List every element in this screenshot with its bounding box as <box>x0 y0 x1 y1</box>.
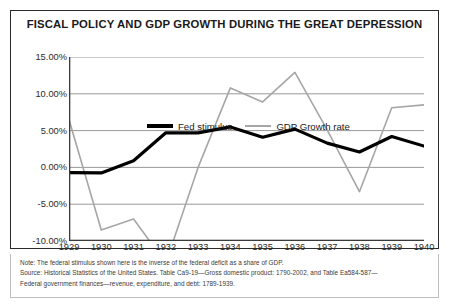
footnote-block: Note: The federal stimulus shown here is… <box>10 254 439 298</box>
figure-root: FISCAL POLICY AND GDP GROWTH DURING THE … <box>0 0 451 302</box>
x-tick-label: 1936 <box>285 242 306 252</box>
legend-label-gdp-growth-rate: GDP Growth rate <box>276 121 349 132</box>
footnote-line-note: Note: The federal stimulus shown here is… <box>20 258 429 268</box>
legend: Fed stimulus GDP Growth rate <box>147 119 350 133</box>
plot-svg <box>69 57 424 241</box>
x-axis-line <box>69 240 424 241</box>
legend-swatch-icon-gdp-growth-rate <box>245 125 271 127</box>
x-tick-label: 1934 <box>220 242 241 252</box>
x-tick-label: 1931 <box>123 242 144 252</box>
legend-label-fed-stimulus: Fed stimulus <box>178 121 232 132</box>
y-axis-labels: -10.00%-5.00%0.00%5.00%10.00%15.00% <box>19 57 67 241</box>
y-tick-label: 0.00% <box>41 162 67 172</box>
footnote-line-source: Source: Historical Statistics of the Uni… <box>20 268 429 278</box>
x-tick-label: 1940 <box>414 242 435 252</box>
y-axis-line <box>69 57 70 241</box>
y-tick-label: 15.00% <box>35 52 67 62</box>
series-line-fed-stimulus <box>69 127 424 173</box>
chart-title: FISCAL POLICY AND GDP GROWTH DURING THE … <box>11 18 438 30</box>
legend-entry-fed-stimulus: Fed stimulus <box>147 121 232 132</box>
gridlines <box>69 57 424 241</box>
x-tick-label: 1938 <box>349 242 370 252</box>
x-tick-label: 1932 <box>155 242 176 252</box>
chart-frame: FISCAL POLICY AND GDP GROWTH DURING THE … <box>10 10 439 249</box>
plot-area: Fed stimulus GDP Growth rate <box>69 57 424 241</box>
legend-entry-gdp-growth-rate: GDP Growth rate <box>245 121 349 132</box>
x-tick-label: 1933 <box>188 242 209 252</box>
y-tick-label: 10.00% <box>35 89 67 99</box>
x-tick-label: 1937 <box>317 242 338 252</box>
x-tick-label: 1935 <box>252 242 273 252</box>
y-tick-label: -5.00% <box>38 199 67 209</box>
x-tick-label: 1939 <box>381 242 402 252</box>
series-line-gdp-growth-rate <box>69 72 424 241</box>
x-tick-label: 1929 <box>59 242 80 252</box>
legend-swatch-icon-fed-stimulus <box>147 124 173 128</box>
footnote-line-source-cont: Federal government finances—revenue, exp… <box>20 279 429 289</box>
x-tick-label: 1930 <box>91 242 112 252</box>
y-tick-label: 5.00% <box>41 126 67 136</box>
